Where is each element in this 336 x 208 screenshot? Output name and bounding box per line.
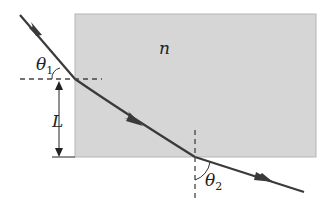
length-label: L [51,111,63,131]
length-arrow-down-icon [55,148,63,157]
glass-slab [75,14,316,157]
refractive-index-label: n [159,38,170,58]
refraction-diagram: θ1 θ2 L n [0,0,336,208]
length-arrow-up-icon [55,81,63,90]
theta2-label: θ2 [205,170,222,193]
theta1-label: θ1 [36,54,53,77]
